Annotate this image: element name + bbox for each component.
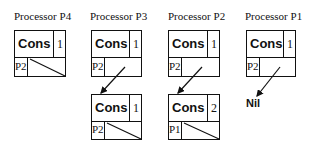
pointer-lines: [0, 0, 314, 148]
null-slash-icon: [184, 123, 219, 139]
null-slash-icon: [30, 59, 65, 76]
arrow-icon: [257, 67, 280, 96]
arrow-icon: [101, 67, 125, 93]
arrow-icon: [178, 67, 202, 93]
null-slash-icon: [107, 123, 141, 139]
